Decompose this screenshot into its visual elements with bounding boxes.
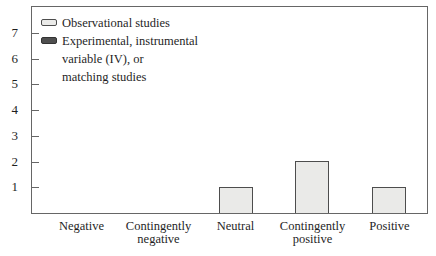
bar-series0-category2 xyxy=(219,187,253,213)
y-tick xyxy=(32,59,39,60)
y-tick-label: 5 xyxy=(0,76,18,92)
y-tick-label: 1 xyxy=(0,179,18,195)
x-axis-category-label-4: Positive xyxy=(351,220,428,246)
y-axis-labels: 1234567 xyxy=(0,7,20,214)
bar-series0-category4 xyxy=(372,187,406,213)
legend-label-observational: Observational studies xyxy=(62,14,170,32)
y-tick-label: 2 xyxy=(0,154,18,170)
legend-item-experimental: Experimental, instrumental variable (IV)… xyxy=(41,32,198,86)
legend-item-observational: Observational studies xyxy=(41,14,198,32)
x-axis-labels: NegativeContingently negativeNeutralCont… xyxy=(31,220,428,246)
y-tick xyxy=(32,187,39,188)
x-axis-category-label-2: Neutral xyxy=(197,220,274,246)
bar-series0-category3 xyxy=(295,161,329,213)
y-tick-label: 4 xyxy=(0,102,18,118)
experimental-swatch-icon xyxy=(41,37,57,44)
x-axis-category-label-3: Contingently positive xyxy=(274,220,351,246)
x-axis-category-label-1: Contingently negative xyxy=(120,220,197,246)
plot-area: Observational studies Experimental, inst… xyxy=(31,6,428,214)
x-axis-category-label-0: Negative xyxy=(43,220,120,246)
y-tick-label: 6 xyxy=(0,51,18,67)
legend-label-experimental: Experimental, instrumental variable (IV)… xyxy=(62,32,198,86)
y-tick xyxy=(32,84,39,85)
y-tick xyxy=(32,33,39,34)
y-tick xyxy=(32,110,39,111)
bar-chart-figure: 1234567 Observational studies Experiment… xyxy=(0,0,436,256)
legend: Observational studies Experimental, inst… xyxy=(41,14,198,86)
y-tick xyxy=(32,162,39,163)
y-tick-label: 3 xyxy=(0,128,18,144)
y-tick-label: 7 xyxy=(0,25,18,41)
y-tick xyxy=(32,136,39,137)
observational-swatch-icon xyxy=(41,19,57,26)
